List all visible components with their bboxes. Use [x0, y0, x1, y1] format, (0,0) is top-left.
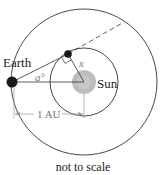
sun-label: Sun [97, 76, 118, 91]
tangent-extension-dashed [68, 22, 124, 54]
x-label: x [78, 57, 84, 69]
orbit-diagram: Earth Sun a° x 1 AU not to scale [0, 0, 166, 175]
earth-label: Earth [3, 55, 32, 70]
planet [64, 50, 72, 58]
angle-label: a° [35, 71, 46, 83]
earth [7, 77, 18, 88]
au-label: 1 AU [37, 108, 61, 120]
caption: not to scale [56, 160, 111, 174]
right-angle-marker [62, 57, 72, 63]
